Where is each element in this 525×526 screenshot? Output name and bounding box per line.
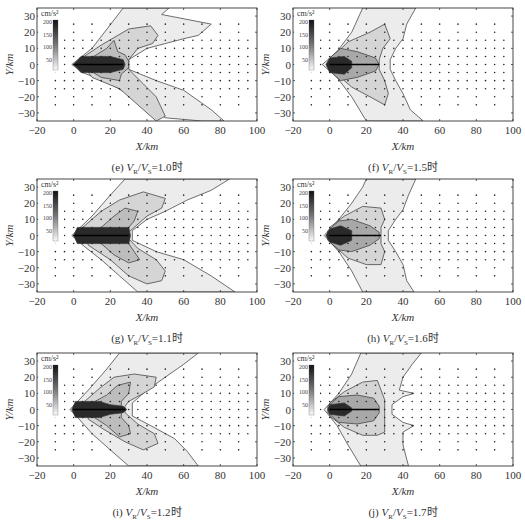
y-tick-label: −20 (18, 262, 36, 274)
x-tick-label: 60 (178, 295, 190, 307)
x-axis-label: X/km (135, 140, 159, 152)
y-tick-label: −10 (18, 246, 36, 258)
caption-caption-prefix: (h) (367, 332, 383, 344)
colorbar-tick: 100 (299, 44, 308, 50)
x-axis-label: X/km (391, 311, 415, 323)
caption-ratio-value: =1.0 (152, 161, 172, 173)
y-axis-label: Y/km (3, 398, 15, 420)
y-tick-label: 20 (24, 371, 36, 383)
x-tick-label: −20 (284, 295, 302, 307)
colorbar-tick: 150 (299, 203, 308, 209)
caption-suffix: 时 (172, 161, 183, 173)
y-tick-label: 0 (286, 404, 292, 416)
x-tick-label: −20 (28, 124, 46, 136)
colorbar-unit: cm/s² (297, 354, 315, 363)
y-tick-label: 20 (280, 26, 292, 38)
contour-plot-e: −200204060801003020100−10−20−30X/kmY/kmc… (0, 0, 262, 175)
colorbar-unit: cm/s² (297, 9, 315, 18)
caption-suffix: 时 (172, 332, 183, 344)
caption-caption-prefix: (f) (368, 161, 382, 173)
panel-caption: (j) VR/VS=1.7时 (272, 503, 525, 521)
y-tick-label: 20 (280, 371, 292, 383)
colorbar-tick: 50 (302, 228, 308, 234)
contour-plot-g: −200204060801003020100−10−20−30X/kmY/kmc… (0, 175, 262, 350)
contour-plot-j: −200204060801003020100−10−20−30X/kmY/kmc… (262, 350, 524, 525)
y-tick-label: −20 (18, 91, 36, 103)
y-tick-label: −30 (18, 107, 36, 119)
x-axis-label: X/km (135, 485, 159, 497)
caption-ratio-value: =1.7 (407, 506, 427, 518)
x-tick-label: 80 (215, 469, 227, 481)
y-tick-label: 10 (24, 387, 36, 399)
y-axis-label: Y/km (259, 53, 271, 75)
x-tick-label: 60 (434, 124, 446, 136)
y-tick-label: −20 (274, 262, 292, 274)
y-axis-label: Y/km (259, 398, 271, 420)
panel-f: −200204060801003020100−10−20−30X/kmY/kmc… (262, 0, 524, 175)
caption-caption-prefix: (i) (112, 506, 125, 518)
y-tick-label: 30 (280, 355, 292, 367)
x-axis-label: X/km (391, 485, 415, 497)
x-tick-label: 20 (105, 469, 117, 481)
colorbar (53, 365, 58, 415)
x-tick-label: −20 (28, 469, 46, 481)
colorbar-tick: 50 (302, 57, 308, 63)
x-tick-label: 60 (434, 295, 446, 307)
colorbar-tick: 150 (43, 203, 52, 209)
x-tick-label: 60 (178, 469, 190, 481)
colorbar-tick: 150 (299, 377, 308, 383)
y-tick-label: −10 (18, 420, 36, 432)
y-tick-label: 10 (280, 387, 292, 399)
caption-ratio-label: V (140, 506, 147, 518)
x-tick-label: 0 (71, 469, 77, 481)
colorbar-tick: 100 (299, 389, 308, 395)
caption-ratio-label: V (382, 161, 389, 173)
panel-h: −200204060801003020100−10−20−30X/kmY/kmc… (262, 175, 524, 350)
y-tick-label: 10 (280, 42, 292, 54)
x-tick-label: 100 (505, 469, 522, 481)
x-tick-label: −20 (28, 295, 46, 307)
colorbar-tick: 200 (43, 19, 52, 25)
colorbar-tick: 200 (299, 19, 308, 25)
colorbar (309, 20, 314, 70)
y-axis-label: Y/km (259, 224, 271, 246)
x-tick-label: 0 (71, 295, 77, 307)
colorbar-tick: 100 (299, 215, 308, 221)
x-tick-label: 40 (398, 295, 410, 307)
y-tick-label: −10 (274, 246, 292, 258)
x-tick-label: 20 (105, 295, 117, 307)
x-tick-label: 80 (471, 469, 483, 481)
x-tick-label: 40 (142, 295, 154, 307)
caption-caption-prefix: (j) (368, 506, 381, 518)
y-tick-label: 10 (24, 42, 36, 54)
colorbar-tick: 100 (43, 44, 52, 50)
x-tick-label: 40 (142, 469, 154, 481)
caption-ratio-label: V (141, 161, 148, 173)
colorbar (309, 191, 314, 241)
y-tick-label: 30 (280, 10, 292, 22)
caption-ratio-value: =1.5 (407, 161, 427, 173)
y-tick-label: −20 (274, 436, 292, 448)
panel-caption: (e) VR/VS=1.0时 (16, 158, 278, 176)
colorbar-tick: 100 (43, 389, 52, 395)
x-tick-label: −20 (284, 469, 302, 481)
colorbar-tick: 50 (46, 402, 52, 408)
x-tick-label: 20 (105, 124, 117, 136)
y-tick-label: −30 (18, 452, 36, 464)
caption-ratio-value: =1.2 (151, 506, 171, 518)
colorbar-tick: 200 (299, 190, 308, 196)
y-axis-label: Y/km (3, 53, 15, 75)
x-tick-label: 20 (361, 295, 373, 307)
colorbar-tick: 50 (302, 402, 308, 408)
caption-ratio-value: =1.1 (152, 332, 172, 344)
y-tick-label: −10 (274, 75, 292, 87)
caption-ratio-label: V (397, 332, 404, 344)
colorbar-unit: cm/s² (41, 180, 59, 189)
y-tick-label: 0 (30, 230, 36, 242)
y-tick-label: 30 (24, 181, 36, 193)
contour-plot-h: −200204060801003020100−10−20−30X/kmY/kmc… (262, 175, 524, 350)
colorbar-tick: 100 (43, 215, 52, 221)
x-tick-label: 40 (398, 469, 410, 481)
colorbar-unit: cm/s² (41, 9, 59, 18)
panel-caption: (h) VR/VS=1.6时 (272, 329, 525, 347)
